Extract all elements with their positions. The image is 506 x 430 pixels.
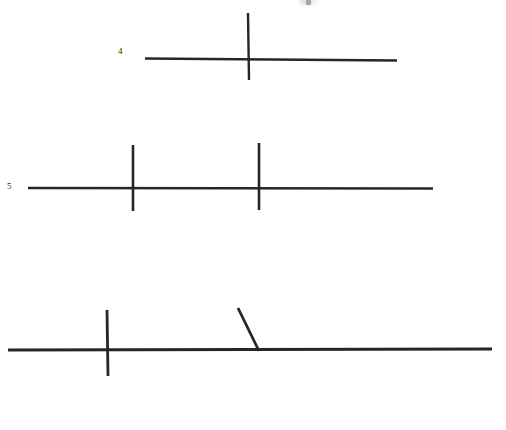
figure-4-baseline [145,59,397,61]
scanned-page: 4 5 [0,0,506,430]
figure-canvas [0,0,506,430]
figure-4 [145,13,397,80]
top-edge-smudge-icon [306,0,311,5]
figure-label-4: 4 [118,47,123,56]
figure-5-baseline [28,188,433,189]
figure-unlabeled-vertical-tick [107,310,108,376]
figure-4-vertical-tick [248,13,249,80]
figure-unlabeled-baseline [8,349,492,350]
figure-unlabeled-oblique-stroke [238,308,259,351]
figure-unlabeled [8,308,492,376]
figure-label-5: 5 [7,182,12,191]
figure-5 [28,143,433,211]
